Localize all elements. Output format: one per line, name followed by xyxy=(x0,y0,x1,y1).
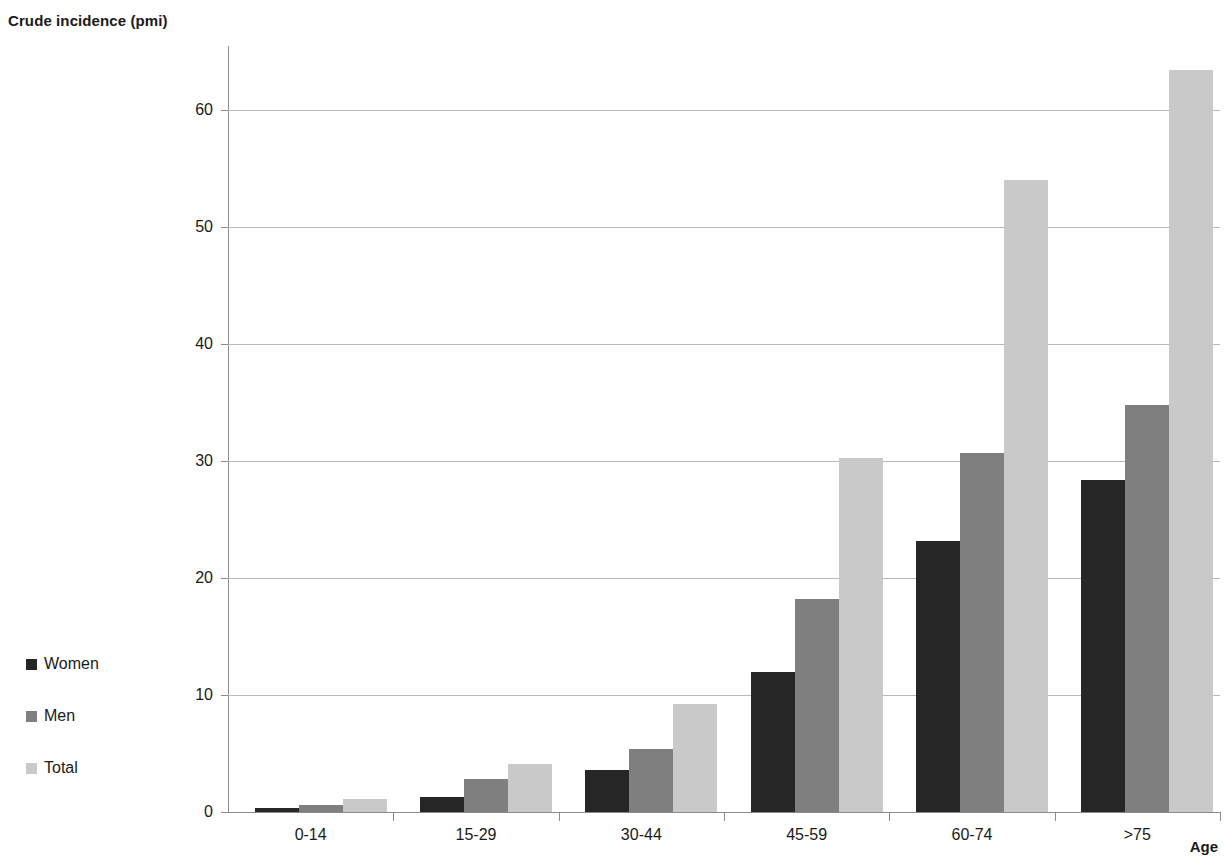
y-axis-tick xyxy=(221,461,228,462)
bar-men->75 xyxy=(1125,405,1169,812)
bar-men-15-29 xyxy=(464,779,508,812)
legend-item-total[interactable]: Total xyxy=(26,742,156,794)
bar-total-60-74 xyxy=(1004,180,1048,812)
bar-men-30-44 xyxy=(629,749,673,812)
x-axis-tick-label: 15-29 xyxy=(456,826,497,844)
bar-women->75 xyxy=(1081,480,1125,812)
bar-group xyxy=(751,110,883,812)
x-axis-tick xyxy=(889,812,890,821)
bar-men-45-59 xyxy=(795,599,839,812)
bar-women-45-59 xyxy=(751,672,795,812)
legend-swatch-icon xyxy=(26,711,37,722)
y-axis-tick-label: 30 xyxy=(153,452,213,470)
bar-women-15-29 xyxy=(420,797,464,812)
bar-group xyxy=(916,110,1048,812)
x-axis-tick-label: >75 xyxy=(1124,826,1151,844)
bar-total-30-44 xyxy=(673,704,717,812)
bar-women-60-74 xyxy=(916,541,960,812)
y-axis-tick-label: 40 xyxy=(153,335,213,353)
y-axis-tick-label: 0 xyxy=(153,803,213,821)
bar-total-15-29 xyxy=(508,764,552,812)
y-axis-tick xyxy=(221,695,228,696)
y-axis-tick xyxy=(221,578,228,579)
bar-total-0-14 xyxy=(343,799,387,812)
bar-women-30-44 xyxy=(585,770,629,812)
bar-women-0-14 xyxy=(255,808,299,812)
y-axis-tick-label: 10 xyxy=(153,686,213,704)
y-axis-tick-label: 20 xyxy=(153,569,213,587)
bar-total-45-59 xyxy=(839,458,883,813)
legend-label: Total xyxy=(44,759,78,777)
x-axis-tick xyxy=(393,812,394,821)
bar-group xyxy=(420,110,552,812)
bar-men-0-14 xyxy=(299,805,343,812)
legend-label: Women xyxy=(44,655,99,673)
chart-legend: WomenMenTotal xyxy=(26,638,156,794)
x-axis-tick xyxy=(559,812,560,821)
y-axis-tick xyxy=(221,812,228,813)
bar-group xyxy=(585,110,717,812)
legend-swatch-icon xyxy=(26,659,37,670)
bar-group xyxy=(1081,110,1213,812)
x-axis-tick xyxy=(1220,812,1221,821)
y-axis-tick-label: 50 xyxy=(153,218,213,236)
legend-label: Men xyxy=(44,707,75,725)
bar-men-60-74 xyxy=(960,453,1004,812)
bar-group xyxy=(255,110,387,812)
x-axis-tick-label: 60-74 xyxy=(952,826,993,844)
x-axis-tick-label: 45-59 xyxy=(786,826,827,844)
x-axis-tick-label: 0-14 xyxy=(295,826,327,844)
plot-area xyxy=(228,110,1220,812)
y-axis-tick xyxy=(221,227,228,228)
x-axis-title: Age xyxy=(1190,838,1218,855)
x-axis-tick xyxy=(1055,812,1056,821)
y-axis-tick xyxy=(221,110,228,111)
legend-item-men[interactable]: Men xyxy=(26,690,156,742)
x-axis-tick-label: 30-44 xyxy=(621,826,662,844)
legend-swatch-icon xyxy=(26,763,37,774)
chart-title: Crude incidence (pmi) xyxy=(8,12,168,29)
legend-item-women[interactable]: Women xyxy=(26,638,156,690)
y-axis-tick-label: 60 xyxy=(153,101,213,119)
y-axis-tick xyxy=(221,344,228,345)
bar-total->75 xyxy=(1169,70,1213,812)
x-axis-tick xyxy=(724,812,725,821)
